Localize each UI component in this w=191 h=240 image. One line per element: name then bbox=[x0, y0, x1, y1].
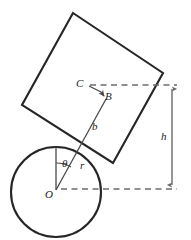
c-to-b-leader-line bbox=[89, 86, 104, 96]
geometry-figure: O r θ b B C h bbox=[0, 0, 191, 240]
label-height-h: h bbox=[161, 131, 167, 142]
label-center-o: O bbox=[45, 189, 53, 200]
label-angle-theta: θ bbox=[62, 158, 67, 169]
label-point-b: B bbox=[105, 91, 112, 102]
label-offset-b-lower: b bbox=[92, 121, 98, 132]
label-radius-r: r bbox=[80, 160, 84, 171]
label-point-c: C bbox=[76, 78, 83, 89]
